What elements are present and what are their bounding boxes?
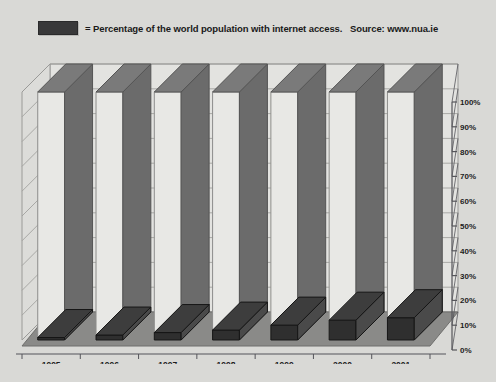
pillar-side-face [181,64,209,340]
data-bar-front-face [271,325,298,340]
pillar-front-face [154,92,181,340]
data-bar-front-face [154,333,181,340]
column-group-2000 [329,64,384,340]
value-axis-tick-label: 70% [460,172,476,181]
column-group-1996 [96,64,151,340]
value-axis-tick-label: 30% [460,272,476,281]
value-axis-tick-label: 100% [460,98,480,107]
legend-label: = Percentage of the world population wit… [85,23,438,34]
category-label-1998: 1998 [217,360,236,364]
data-bar-front-face [387,318,414,340]
value-axis-tick-label: 40% [460,247,476,256]
category-label-1995: 1995 [42,360,61,364]
value-axis-tick-label: 80% [460,148,476,157]
pillar-front-face [96,92,123,340]
chart-plot-area: 0%10%20%30%40%50%60%70%80%90%100%1995199… [0,44,496,364]
category-label-1999: 1999 [275,360,294,364]
chart-container: = Percentage of the world population wit… [0,0,496,382]
column-group-1995 [38,64,93,340]
column-group-2001 [387,64,442,340]
category-label-2001: 2001 [391,360,410,364]
column-group-1997 [154,64,209,340]
pillar-side-face [239,64,267,340]
pillar-side-face [123,64,151,340]
value-axis-tick-label: 20% [460,296,476,305]
data-bar-front-face [96,335,123,340]
legend-color-swatch [38,21,78,35]
value-axis-tick-label: 10% [460,321,476,330]
category-label-1997: 1997 [158,360,177,364]
value-axis-tick-label: 90% [460,123,476,132]
data-bar-front-face [329,320,356,340]
value-axis-tick-label: 50% [460,222,476,231]
data-bar-front-face [213,330,240,340]
pillar-front-face [38,92,65,340]
chart-legend: = Percentage of the world population wit… [38,17,438,39]
pillar-front-face [213,92,240,340]
column-group-1998 [213,64,268,340]
value-axis-tick-label: 0% [460,346,472,355]
column-group-1999 [271,64,326,340]
category-label-2000: 2000 [333,360,352,364]
category-label-1996: 1996 [100,360,119,364]
pillar-side-face [65,64,93,340]
value-axis-tick-label: 60% [460,197,476,206]
